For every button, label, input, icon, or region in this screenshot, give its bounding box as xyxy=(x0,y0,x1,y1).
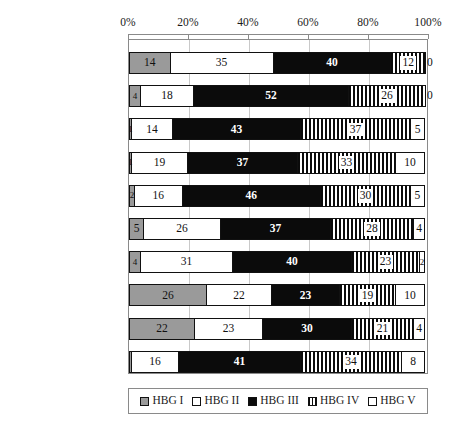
segment-value: 8 xyxy=(410,356,416,368)
bar-segment-hbg-ii: 26 xyxy=(143,218,221,240)
bar-segment-hbg-iv: 33 xyxy=(297,152,396,174)
segment-value: 14 xyxy=(146,124,158,136)
x-axis-line xyxy=(128,34,428,35)
x-axis-tick xyxy=(128,34,129,39)
segment-value: 52 xyxy=(265,90,277,102)
x-axis-tick xyxy=(308,34,309,39)
segment-value: 33 xyxy=(340,157,354,169)
segment-value: 12 xyxy=(401,57,415,69)
chart-row: Hamburg11443375 xyxy=(129,118,427,140)
bar-segment-hbg-ii: 14 xyxy=(131,118,173,140)
segment-value: 23 xyxy=(300,290,312,302)
bar-segment-hbg-iv: 23 xyxy=(351,251,420,273)
segment-value: 23 xyxy=(379,256,393,268)
segment-value: 10 xyxy=(404,157,416,169)
segment-value: 30 xyxy=(359,190,373,202)
chart-row: Oberbayern43140232 xyxy=(129,251,427,273)
bar-segment-hbg-iv: 19 xyxy=(339,284,396,306)
bar-segment-hbg-v: 10 xyxy=(395,284,425,306)
chart-legend: HBG IHBG IIHBG IIIHBG IVHBG V xyxy=(128,388,428,414)
bar-segment-hbg-i: 26 xyxy=(129,284,207,306)
gray-swatch xyxy=(140,397,149,406)
legend-label: HBG III xyxy=(260,395,299,407)
x-axis-tick xyxy=(368,34,369,39)
bar-segment-hbg-ii: 18 xyxy=(140,85,194,107)
bar-segment-hbg-ii: 31 xyxy=(140,251,233,273)
bar-segment-hbg-iii: 23 xyxy=(271,284,340,306)
segment-value: 5 xyxy=(415,190,421,202)
segment-value: 19 xyxy=(361,290,375,302)
x-axis-tick xyxy=(248,34,249,39)
bar-segment-hbg-iv: 28 xyxy=(330,218,414,240)
plot-area: eigene Studie143540120Bremen41852260Hamb… xyxy=(128,39,428,374)
legend-item[interactable]: HBG IV xyxy=(308,395,359,407)
segment-value: 1 xyxy=(128,158,133,167)
segment-value: 5 xyxy=(134,223,140,235)
bar-segment-hbg-iii: 40 xyxy=(273,52,392,74)
chart-row: Westfalen-Lippe222330214 xyxy=(129,318,427,340)
legend-item[interactable]: HBG V xyxy=(368,395,415,407)
bar-segment-hbg-v: 10 xyxy=(395,152,425,174)
bar-segment-hbg-iii: 37 xyxy=(220,218,331,240)
stacked-bar: 21646305 xyxy=(129,185,429,207)
segment-value: 4 xyxy=(416,223,422,235)
segment-value: 40 xyxy=(326,57,338,69)
segment-value: 23 xyxy=(223,323,235,335)
legend-label: HBG II xyxy=(204,395,239,407)
x-axis-tick-label: 60% xyxy=(297,16,319,28)
segment-value: 41 xyxy=(234,356,246,368)
x-axis-tick-label: 80% xyxy=(357,16,379,28)
bar-segment-hbg-iii: 46 xyxy=(182,185,321,207)
segment-value: 0 xyxy=(427,90,433,102)
segment-value: 22 xyxy=(233,290,245,302)
segment-value: 37 xyxy=(270,223,282,235)
stacked-bar: 222330214 xyxy=(129,318,429,340)
bar-segment-hbg-iii: 52 xyxy=(193,85,349,107)
segment-value: 4 xyxy=(416,323,422,335)
white-swatch xyxy=(192,397,201,406)
bar-segment-hbg-v: 2 xyxy=(419,251,425,273)
bar-segment-hbg-iv: 30 xyxy=(320,185,411,207)
chart-row: Hessen119373310 xyxy=(129,152,427,174)
segment-value: 26 xyxy=(162,290,174,302)
stacked-bar: 52637284 xyxy=(129,218,429,240)
x-axis-tick-labels: 0%20%40%60%80%100% xyxy=(128,16,428,32)
x-axis-tick-label: 0% xyxy=(120,16,136,28)
bar-segment-hbg-ii: 23 xyxy=(194,318,263,340)
bar-segment-hbg-iv: 34 xyxy=(300,351,402,373)
bar-segment-hbg-i: 5 xyxy=(129,218,144,240)
bar-segment-hbg-ii: 35 xyxy=(170,52,274,74)
segment-value: 35 xyxy=(216,57,228,69)
segment-value: 4 xyxy=(133,258,138,267)
segment-value: 31 xyxy=(181,256,193,268)
segment-value: 40 xyxy=(286,256,298,268)
legend-item[interactable]: HBG I xyxy=(140,395,183,407)
bar-segment-hbg-v: 4 xyxy=(413,218,425,240)
legend-item[interactable]: HBG II xyxy=(192,395,239,407)
segment-value: 5 xyxy=(415,124,421,136)
legend-item[interactable]: HBG III xyxy=(248,395,299,407)
bar-segment-hbg-v: 5 xyxy=(410,118,425,140)
bar-segment-hbg-ii: 19 xyxy=(131,152,188,174)
segment-value: 21 xyxy=(376,323,390,335)
white-swatch xyxy=(368,397,377,406)
bar-segment-hbg-v: 8 xyxy=(401,351,425,373)
segment-value: 16 xyxy=(149,356,161,368)
segment-value: 30 xyxy=(301,323,313,335)
x-axis-tick xyxy=(428,34,429,39)
segment-value: 1 xyxy=(128,125,133,134)
stacked-bar: 43140232 xyxy=(129,251,429,273)
chart-row: eigene Studie143540120 xyxy=(129,52,427,74)
bar-segment-hbg-iii: 37 xyxy=(187,152,298,174)
bar-segment-hbg-iii: 30 xyxy=(262,318,352,340)
segment-value: 22 xyxy=(156,323,168,335)
segment-value: 16 xyxy=(153,190,165,202)
bar-segment-hbg-v: 4 xyxy=(413,318,425,340)
chart-row: Bremen41852260 xyxy=(129,85,427,107)
bar-segment-hbg-ii: 16 xyxy=(131,351,179,373)
bar-segment-hbg-i: 14 xyxy=(129,52,171,74)
black-swatch xyxy=(248,397,257,406)
chart-row: Niedersachsen52637284 xyxy=(129,218,427,240)
stacked-bar: 2622231910 xyxy=(129,284,429,306)
bar-segment-hbg-iv: 12 xyxy=(390,52,426,74)
